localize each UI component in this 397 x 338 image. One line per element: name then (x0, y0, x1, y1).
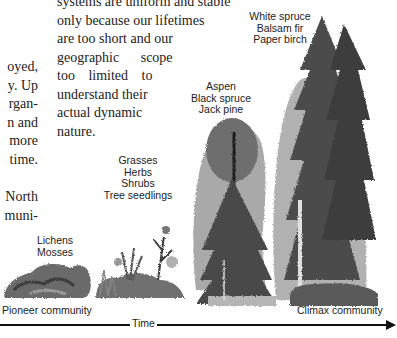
arrow-right-icon (386, 320, 396, 330)
stage-label-climax: White spruce Balsam fir Paper birch (240, 11, 320, 46)
axis-middle-label: Time (130, 318, 157, 330)
climax-forest-icon (273, 16, 378, 306)
species-label: Paper birch (240, 34, 320, 46)
species-label: Grasses (100, 155, 176, 167)
time-axis-line (0, 324, 388, 326)
stage-label-intermediate: Aspen Black spruce Jack pine (188, 81, 254, 116)
species-label: Jack pine (188, 104, 254, 116)
species-label: Tree seedlings (100, 190, 176, 202)
intermediate-forest-icon (193, 118, 276, 306)
species-label: Shrubs (100, 178, 176, 190)
succession-illustration (0, 0, 397, 338)
species-label: Aspen (188, 81, 254, 93)
grass-shrub-icon (96, 226, 184, 298)
axis-start-label: Pioneer community (2, 305, 92, 317)
axis-end-label: Climax community (297, 305, 383, 317)
species-label: Lichens (30, 235, 80, 247)
stage-label-pioneer: Lichens Mosses (30, 235, 80, 258)
species-label: Mosses (30, 247, 80, 259)
lichen-rock-icon (4, 264, 91, 298)
species-label: White spruce (240, 11, 320, 23)
stage-label-early: Grasses Herbs Shrubs Tree seedlings (100, 155, 176, 201)
